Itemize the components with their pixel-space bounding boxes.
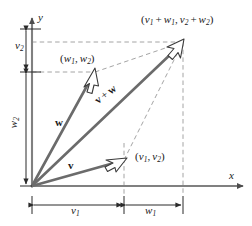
sum-close-paren: ) — [210, 13, 214, 25]
sum-comma: , — [175, 13, 178, 25]
wpt-a-var: w — [64, 52, 71, 64]
vpt-a-var: v — [139, 150, 144, 162]
wpt-b-var: w — [80, 52, 87, 64]
measure-label-v1: v1 — [71, 205, 80, 218]
sum-plus-2: + — [190, 13, 196, 25]
vector-addition-figure: y x (v1+w1,v2+w2) (w1,w2) (v1,v2) w v v+… — [0, 0, 252, 226]
sum-v2-var: v — [180, 13, 185, 25]
wpt-close-paren: ) — [91, 52, 95, 64]
sum-v2-sub: 2 — [185, 18, 189, 27]
measure-v2-sub: 2 — [20, 44, 24, 53]
vector-label-v: v — [68, 160, 74, 171]
measure-w2-sub: 2 — [12, 117, 21, 121]
measure-label-w2: w2 — [8, 117, 21, 128]
sum-plus-1: + — [155, 13, 161, 25]
x-axis-label: x — [229, 170, 234, 181]
diagram-canvas — [0, 0, 252, 226]
wpt-comma: , — [75, 52, 78, 64]
vector-label-w: w — [55, 117, 63, 128]
measure-w1-sub: 1 — [152, 209, 156, 218]
measure-w2-var: w — [7, 121, 19, 128]
arrowhead-v-plus-w — [167, 39, 184, 60]
y-axis-label: y — [38, 12, 43, 23]
vpt-comma: , — [147, 150, 150, 162]
sum-v1-var: v — [145, 13, 150, 25]
dash-v-to-sum — [124, 42, 183, 160]
vector-w-shaft — [32, 84, 88, 186]
point-label-v: (v1,v2) — [135, 151, 165, 164]
sum-w2-var: w — [199, 13, 206, 25]
vectors-group — [32, 51, 174, 186]
measure-w2 — [20, 74, 32, 186]
point-label-w: (w1,w2) — [60, 53, 95, 66]
sum-v1-sub: 1 — [150, 18, 154, 27]
vpt-close-paren: ) — [161, 150, 165, 162]
sum-w1-var: w — [164, 13, 171, 25]
measure-v1-sub: 1 — [76, 209, 80, 218]
point-label-sum: (v1+w1,v2+w2) — [141, 14, 214, 27]
measure-label-w1: w1 — [145, 205, 156, 218]
measure-label-v2: v2 — [15, 40, 24, 53]
